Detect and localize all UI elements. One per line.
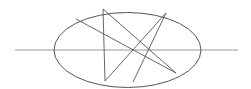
chord-BF [103,9,105,81]
chord-BD [103,9,176,73]
chord-AD [76,19,176,73]
chords-group [76,9,176,82]
chord-CF [105,13,166,81]
chord-CE [133,13,166,82]
ellipse-chord-diagram [0,0,251,89]
